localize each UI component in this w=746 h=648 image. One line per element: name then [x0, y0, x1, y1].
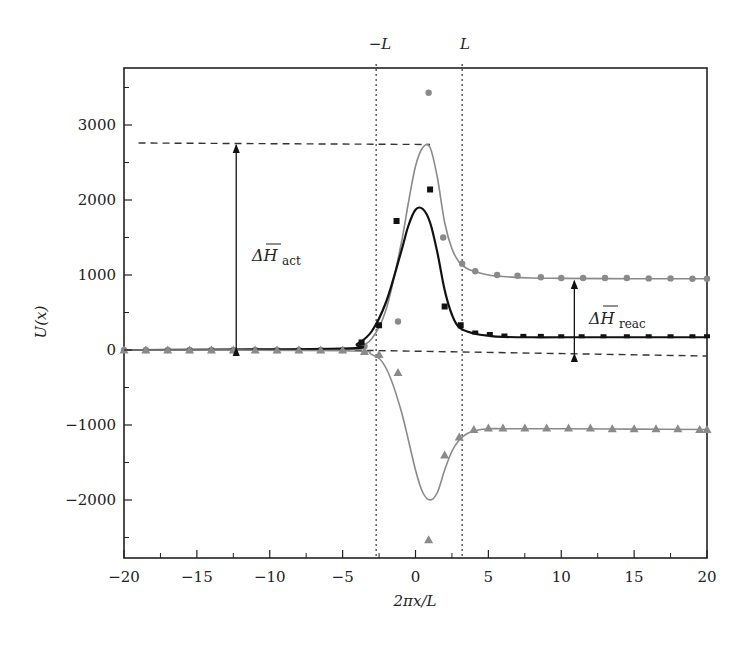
series-triangle: [120, 346, 712, 544]
annotations: [236, 145, 574, 354]
y-tick-label: −1000: [65, 416, 116, 434]
x-tick-label: −15: [181, 568, 213, 586]
data-point-triangle: [484, 424, 493, 432]
data-point-circle: [624, 275, 630, 281]
data-point-triangle: [440, 451, 449, 459]
series-circle: [121, 90, 710, 354]
data-point-circle: [689, 276, 695, 282]
x-tick-label: −10: [254, 568, 286, 586]
data-point-circle: [514, 273, 520, 279]
y-tick-label: 1000: [78, 266, 116, 284]
data-point-triangle: [673, 424, 682, 432]
data-point-square: [579, 334, 585, 338]
x-tick-label: −5: [332, 568, 354, 586]
data-point-circle: [395, 318, 401, 324]
data-point-square: [668, 334, 674, 338]
data-point-circle: [538, 274, 544, 280]
data-point-triangle: [498, 424, 507, 432]
plus-l-label: L: [459, 35, 470, 53]
y-tick-label: −2000: [65, 491, 116, 509]
data-point-circle: [602, 275, 608, 281]
data-point-square: [538, 334, 544, 338]
svg-text:ΔH: ΔH: [588, 309, 616, 328]
x-axis-label: 2πx/L: [393, 592, 437, 610]
y-axis-label: U(x): [32, 305, 50, 338]
x-tick-label: −20: [108, 568, 140, 586]
svg-text:ΔH: ΔH: [251, 246, 279, 265]
dh-reac-label: ΔH reac: [588, 306, 646, 331]
data-point-triangle: [630, 424, 639, 432]
data-point-triangle: [394, 368, 403, 376]
data-point-square: [601, 334, 607, 338]
data-point-square: [689, 334, 695, 338]
data-point-triangle: [469, 425, 478, 433]
data-point-square: [359, 340, 365, 346]
plot-frame: [124, 68, 707, 558]
data-point-triangle: [564, 424, 573, 432]
chart-canvas: −20−15−10−505101520−2000−100001000200030…: [0, 0, 746, 648]
x-tick-label: 5: [484, 568, 494, 586]
reference-lines: [139, 64, 707, 558]
data-point-triangle: [520, 424, 529, 432]
data-point-circle: [667, 275, 673, 281]
data-point-triangle: [542, 424, 551, 432]
data-point-square: [558, 334, 564, 338]
minus-l-label: −L: [369, 35, 392, 53]
svg-text:reac: reac: [619, 317, 646, 331]
data-point-circle: [472, 268, 478, 274]
data-point-circle: [494, 272, 500, 278]
data-point-square: [520, 334, 526, 338]
data-point-square: [646, 334, 652, 338]
data-point-square: [442, 304, 448, 310]
data-point-square: [376, 322, 382, 328]
data-point-triangle: [586, 424, 595, 432]
y-tick-label: 2000: [78, 191, 116, 209]
dh-act-label: ΔH act: [251, 244, 301, 268]
y-tick-label: 0: [106, 341, 116, 359]
dashed-reference-line: [139, 143, 431, 145]
data-point-triangle: [424, 535, 433, 543]
data-point-circle: [580, 275, 586, 281]
data-point-circle: [440, 234, 446, 240]
data-point-triangle: [651, 424, 660, 432]
data-point-square: [458, 322, 464, 328]
x-tick-label: 0: [411, 568, 421, 586]
data-point-square: [472, 331, 478, 335]
data-point-square: [394, 218, 400, 224]
data-point-circle: [558, 275, 564, 281]
data-point-square: [704, 334, 710, 338]
data-point-square: [487, 332, 493, 336]
dashed-reference-line: [343, 350, 707, 356]
data-point-circle: [459, 261, 465, 267]
series-curve: [124, 350, 707, 500]
data-point-circle: [425, 90, 431, 96]
svg-text:act: act: [282, 254, 301, 268]
y-tick-label: 3000: [78, 116, 116, 134]
plot-border: [124, 68, 707, 558]
data-point-square: [501, 334, 507, 338]
x-tick-label: 15: [625, 568, 644, 586]
data-point-circle: [646, 275, 652, 281]
data-point-square: [624, 334, 630, 338]
x-tick-label: 10: [552, 568, 571, 586]
data-point-square: [427, 187, 433, 193]
x-tick-label: 20: [697, 568, 716, 586]
data-point-circle: [704, 276, 710, 282]
